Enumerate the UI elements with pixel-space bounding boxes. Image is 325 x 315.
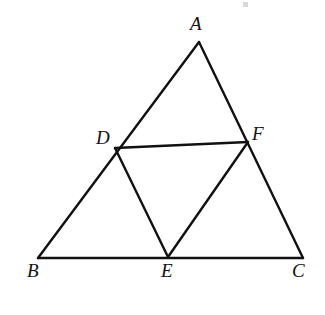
segment-DF bbox=[115, 142, 248, 148]
geometry-figure: A B C D E F bbox=[0, 0, 325, 315]
segment-AB bbox=[38, 42, 199, 258]
scan-artifact-speck bbox=[243, 2, 248, 7]
segment-DE bbox=[115, 148, 168, 257]
segments-group bbox=[38, 42, 303, 258]
vertex-label-b: B bbox=[27, 261, 39, 280]
vertex-label-a: A bbox=[190, 14, 202, 33]
vertex-label-f: F bbox=[252, 124, 264, 143]
segment-EF bbox=[168, 142, 248, 257]
vertex-label-d: D bbox=[96, 128, 110, 147]
segment-AC bbox=[199, 42, 303, 258]
vertex-label-e: E bbox=[161, 261, 173, 280]
vertex-label-c: C bbox=[292, 261, 305, 280]
